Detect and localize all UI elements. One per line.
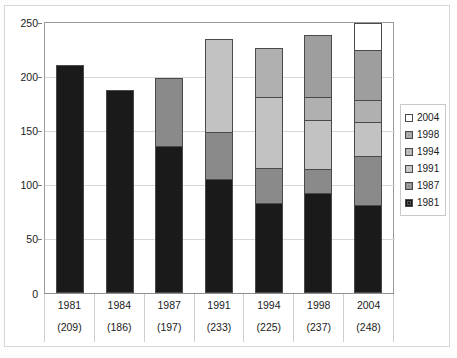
- y-axis: 50100150200250: [4, 22, 42, 294]
- stacked-bar-1981[interactable]: [56, 65, 84, 293]
- y-tick-label-250: 250: [20, 17, 38, 29]
- legend-swatch-1994: [405, 148, 413, 156]
- bar-segment-1991-1991[interactable]: [206, 40, 232, 132]
- stacked-bar-2004[interactable]: [354, 23, 382, 293]
- legend-label-2004: 2004: [417, 112, 439, 123]
- bar-slot-1991: [194, 23, 244, 293]
- x-axis-category-label: 2004: [357, 299, 380, 312]
- bar-segment-1998-1998[interactable]: [305, 36, 331, 96]
- x-axis-column-1987: 1987(197): [145, 294, 195, 342]
- stacked-bar-1998[interactable]: [304, 35, 332, 293]
- bar-slot-1987: [144, 23, 194, 293]
- y-tick-mark-50: [38, 239, 42, 240]
- bar-segment-1998-1994[interactable]: [305, 97, 331, 121]
- x-axis-column-1998: 1998(237): [294, 294, 344, 342]
- bar-slot-1984: [95, 23, 145, 293]
- bar-segment-2004-1991[interactable]: [355, 122, 381, 155]
- bar-segment-1998-1981[interactable]: [305, 193, 331, 292]
- x-axis-total-label: (233): [207, 321, 232, 334]
- legend-swatch-1987: [405, 182, 413, 190]
- legend-label-1981: 1981: [417, 197, 439, 208]
- x-axis-table: 1981(209)1984(186)1987(197)1991(233)1994…: [44, 294, 394, 342]
- legend-item-2004[interactable]: 2004: [405, 109, 442, 126]
- bar-segment-1987-1987[interactable]: [156, 79, 182, 146]
- legend-swatch-1981: [405, 199, 413, 207]
- stacked-bar-1994[interactable]: [255, 48, 283, 293]
- x-axis-total-label: (197): [157, 321, 182, 334]
- legend-label-1998: 1998: [417, 129, 439, 140]
- legend-item-1998[interactable]: 1998: [405, 126, 442, 143]
- bar-segment-1994-1981[interactable]: [256, 203, 282, 292]
- legend-label-1987: 1987: [417, 180, 439, 191]
- x-axis-column-1981: 1981(209): [45, 294, 95, 342]
- legend-item-1994[interactable]: 1994: [405, 143, 442, 160]
- stacked-bar-1987[interactable]: [155, 78, 183, 293]
- y-tick-mark-250: [38, 23, 42, 24]
- bar-segment-2004-1981[interactable]: [355, 205, 381, 292]
- legend-label-1994: 1994: [417, 146, 439, 157]
- x-axis-column-1994: 1994(225): [244, 294, 294, 342]
- chart-root: 50100150200250 0 20041998199419911987198…: [0, 0, 457, 358]
- legend-swatch-2004: [405, 114, 413, 122]
- bar-slot-2004: [343, 23, 393, 293]
- bar-segment-2004-2004[interactable]: [355, 24, 381, 50]
- x-axis-category-label: 1994: [257, 299, 280, 312]
- bar-segment-1994-1991[interactable]: [256, 97, 282, 168]
- y-tick-mark-100: [38, 185, 42, 186]
- bar-slot-1981: [45, 23, 95, 293]
- legend-label-1991: 1991: [417, 163, 439, 174]
- bar-segment-1987-1981[interactable]: [156, 146, 182, 292]
- y-tick-label-150: 150: [20, 125, 38, 137]
- bar-segment-2004-1987[interactable]: [355, 156, 381, 205]
- x-axis-category-label: 1991: [207, 299, 230, 312]
- y-tick-mark-150: [38, 131, 42, 132]
- plot-wrapper: [44, 22, 394, 294]
- legend-swatch-1991: [405, 165, 413, 173]
- bar-segment-1991-1981[interactable]: [206, 179, 232, 292]
- x-axis-total-label: (237): [306, 321, 331, 334]
- x-axis-total-label: (186): [107, 321, 132, 334]
- legend-item-1987[interactable]: 1987: [405, 177, 442, 194]
- legend-item-1981[interactable]: 1981: [405, 194, 442, 211]
- bar-segment-1998-1987[interactable]: [305, 169, 331, 193]
- y-tick-label-200: 200: [20, 71, 38, 83]
- bar-segment-1991-1987[interactable]: [206, 132, 232, 178]
- stacked-bar-1991[interactable]: [205, 39, 233, 293]
- x-axis-total-label: (225): [257, 321, 282, 334]
- x-axis-category-label: 1987: [157, 299, 180, 312]
- bar-segment-1984-1981[interactable]: [107, 91, 133, 292]
- x-axis-category-label: 1984: [108, 299, 131, 312]
- y-tick-label-50: 50: [26, 233, 38, 245]
- legend-item-1991[interactable]: 1991: [405, 160, 442, 177]
- y-tick-label-100: 100: [20, 179, 38, 191]
- bar-segment-1994-1987[interactable]: [256, 168, 282, 204]
- x-axis-total-label: (248): [356, 321, 381, 334]
- x-axis-category-label: 1981: [58, 299, 81, 312]
- bar-group: [45, 23, 393, 293]
- x-axis-total-label: (209): [57, 321, 82, 334]
- y-tick-zero: 0: [4, 288, 42, 300]
- x-axis-column-1991: 1991(233): [195, 294, 245, 342]
- legend-swatch-1998: [405, 131, 413, 139]
- x-axis-category-label: 1998: [307, 299, 330, 312]
- stacked-bar-1984[interactable]: [106, 90, 134, 293]
- bar-segment-2004-1994[interactable]: [355, 100, 381, 123]
- bar-segment-2004-1998[interactable]: [355, 50, 381, 100]
- y-tick-mark-200: [38, 77, 42, 78]
- bar-slot-1998: [294, 23, 344, 293]
- chart-legend: 200419981994199119871981: [400, 104, 446, 216]
- bar-slot-1994: [244, 23, 294, 293]
- x-axis-column-1984: 1984(186): [95, 294, 145, 342]
- bar-segment-1998-1991[interactable]: [305, 120, 331, 169]
- bar-segment-1994-1994[interactable]: [256, 49, 282, 97]
- bar-segment-1981-1981[interactable]: [57, 66, 83, 292]
- x-axis-column-2004: 2004(248): [344, 294, 394, 342]
